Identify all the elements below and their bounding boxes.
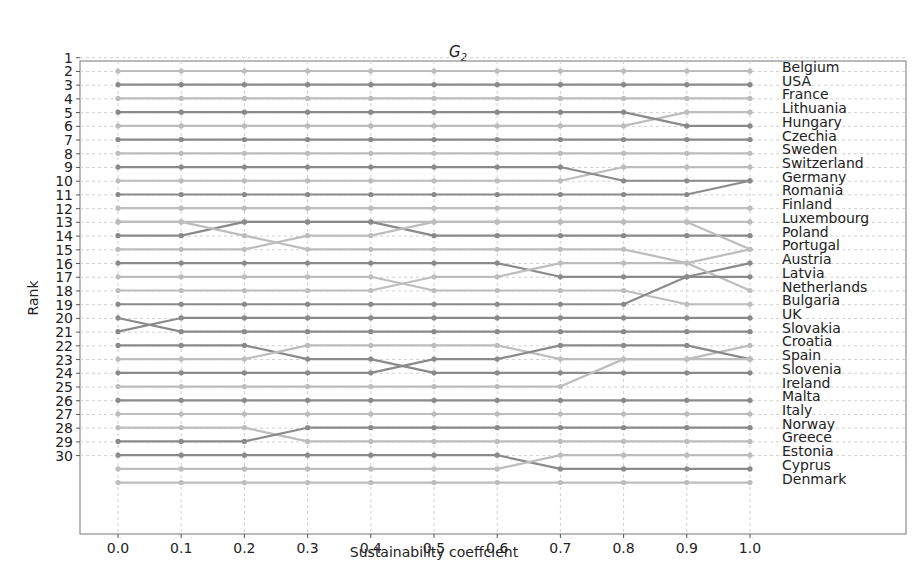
series-norway	[115, 411, 752, 416]
x-tick-label: 0.1	[170, 540, 192, 556]
country-label: Denmark	[782, 471, 847, 487]
rank-chart: G2 1234567891011121314151617181920212223…	[0, 0, 921, 569]
x-tick-label: 0.0	[107, 540, 129, 556]
x-tick-label: 0.8	[612, 540, 634, 556]
series-usa	[115, 82, 752, 87]
y-axis-ticks: 1234567891011121314151617181920212223242…	[55, 50, 80, 464]
country-labels: BelgiumUSAFranceLithuaniaHungaryCzechiaS…	[782, 59, 869, 487]
x-tick-label: 0.9	[676, 540, 698, 556]
series-italy	[115, 398, 752, 403]
svg-text:G2: G2	[449, 43, 467, 63]
chart-title: G2	[449, 43, 467, 63]
x-tick-label: 0.2	[233, 540, 255, 556]
series-france	[115, 96, 752, 101]
x-tick-label: 1.0	[739, 540, 761, 556]
series-czechia	[115, 137, 752, 142]
x-axis-label: Sustainability coeffcient	[350, 544, 519, 560]
x-tick-label: 0.7	[549, 540, 571, 556]
y-tick-label: 30	[55, 448, 73, 464]
y-axis-label: Rank	[25, 280, 41, 316]
series-sweden	[115, 151, 752, 156]
series-belgium	[115, 68, 752, 73]
series-finland	[115, 206, 752, 211]
x-tick-label: 0.3	[296, 540, 318, 556]
series-denmark-31	[115, 480, 752, 485]
